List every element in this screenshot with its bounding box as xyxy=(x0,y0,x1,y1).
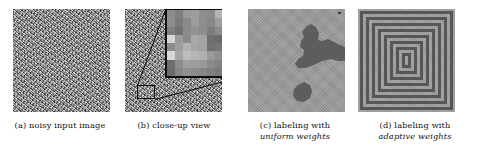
close-up-pixel-7-0 xyxy=(167,68,175,76)
close-up-pixel-5-2 xyxy=(183,51,191,59)
caption-panel-b-line1: (b) close-up view xyxy=(118,120,230,131)
close-up-pixel-7-6 xyxy=(215,68,222,76)
close-up-pixel-1-4 xyxy=(199,18,207,26)
close-up-pixel-1-5 xyxy=(207,18,215,26)
close-up-pixel-3-5 xyxy=(207,35,215,43)
close-up-pixel-4-0 xyxy=(167,43,175,51)
close-up-pixel-2-0 xyxy=(167,27,175,35)
close-up-pixel-3-4 xyxy=(199,35,207,43)
close-up-pixel-6-0 xyxy=(167,60,175,68)
close-up-pixel-grid xyxy=(165,9,222,78)
close-up-pixel-3-6 xyxy=(215,35,222,43)
close-up-pixel-0-4 xyxy=(199,10,207,18)
caption-panel-c: (c) labeling with uniform weights xyxy=(236,120,354,141)
close-up-pixel-1-2 xyxy=(183,18,191,26)
close-up-pixel-5-6 xyxy=(215,51,222,59)
panel-d-labeling-adaptive-weights xyxy=(358,9,455,112)
close-up-pixel-6-4 xyxy=(199,60,207,68)
close-up-pixel-7-4 xyxy=(199,68,207,76)
close-up-pixel-6-6 xyxy=(215,60,222,68)
close-up-pixel-7-3 xyxy=(191,68,199,76)
panel-c-labeling-uniform-weights xyxy=(248,9,345,112)
close-up-pixel-5-1 xyxy=(175,51,183,59)
panel-b-close-up-view xyxy=(125,9,222,112)
close-up-pixel-0-6 xyxy=(215,10,222,18)
close-up-pixel-5-4 xyxy=(199,51,207,59)
close-up-pixel-6-5 xyxy=(207,60,215,68)
close-up-pixel-1-3 xyxy=(191,18,199,26)
close-up-pixel-2-6 xyxy=(215,27,222,35)
close-up-pixel-2-2 xyxy=(183,27,191,35)
corner-speck-c xyxy=(338,12,341,14)
close-up-pixel-4-1 xyxy=(175,43,183,51)
close-up-pixel-5-5 xyxy=(207,51,215,59)
close-up-pixel-0-0 xyxy=(167,10,175,18)
close-up-pixel-6-1 xyxy=(175,60,183,68)
close-up-source-region-box xyxy=(137,85,155,99)
concentric-square-rings xyxy=(358,9,455,112)
close-up-pixel-7-5 xyxy=(207,68,215,76)
close-up-pixel-6-3 xyxy=(191,60,199,68)
close-up-pixel-2-1 xyxy=(175,27,183,35)
ring-center xyxy=(360,11,453,110)
caption-panel-a: (a) noisy input image xyxy=(0,120,120,131)
close-up-pixel-2-5 xyxy=(207,27,215,35)
caption-panel-d: (d) labeling with adaptive weights xyxy=(352,120,478,141)
close-up-pixel-1-6 xyxy=(215,18,222,26)
close-up-pixel-0-2 xyxy=(183,10,191,18)
close-up-pixel-4-6 xyxy=(215,43,222,51)
label-blobs-c xyxy=(248,9,345,112)
close-up-pixel-5-0 xyxy=(167,51,175,59)
caption-panel-a-line1: (a) noisy input image xyxy=(0,120,120,131)
close-up-pixel-6-2 xyxy=(183,60,191,68)
noise-texture-a xyxy=(13,9,110,112)
close-up-pixel-4-3 xyxy=(191,43,199,51)
caption-panel-c-line1: (c) labeling with xyxy=(236,120,354,131)
close-up-pixel-4-5 xyxy=(207,43,215,51)
close-up-pixel-2-3 xyxy=(191,27,199,35)
caption-panel-b: (b) close-up view xyxy=(118,120,230,131)
close-up-pixel-5-3 xyxy=(191,51,199,59)
caption-panel-d-line2: adaptive weights xyxy=(352,131,478,142)
close-up-pixel-3-1 xyxy=(175,35,183,43)
figure-container: (a) noisy input image (b) close-up view … xyxy=(0,0,480,150)
close-up-pixel-2-4 xyxy=(199,27,207,35)
close-up-pixel-1-0 xyxy=(167,18,175,26)
close-up-pixel-7-2 xyxy=(183,68,191,76)
close-up-pixel-1-1 xyxy=(175,18,183,26)
close-up-pixel-4-4 xyxy=(199,43,207,51)
caption-panel-d-line1: (d) labeling with xyxy=(352,120,478,131)
caption-panel-c-line2: uniform weights xyxy=(236,131,354,142)
close-up-pixel-4-2 xyxy=(183,43,191,51)
close-up-pixel-0-5 xyxy=(207,10,215,18)
close-up-pixel-3-0 xyxy=(167,35,175,43)
close-up-pixel-3-3 xyxy=(191,35,199,43)
close-up-pixel-7-1 xyxy=(175,68,183,76)
close-up-pixel-0-3 xyxy=(191,10,199,18)
panel-a-noisy-input-image xyxy=(13,9,110,112)
close-up-pixel-3-2 xyxy=(183,35,191,43)
close-up-pixel-0-1 xyxy=(175,10,183,18)
